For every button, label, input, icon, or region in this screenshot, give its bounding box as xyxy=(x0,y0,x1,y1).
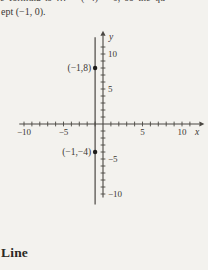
data-point-label: (−1,−4) xyxy=(62,147,91,158)
clipped-text-fragment: e formula is … = (−4) = 0, so the qu xyxy=(0,0,208,3)
clipped-text-line: e formula is … = (−4) = 0, so the qu xyxy=(0,0,208,4)
data-point xyxy=(93,150,97,154)
y-tick-label: 10 xyxy=(108,49,118,59)
y-axis-arrow xyxy=(100,31,105,36)
y-tick-label: −5 xyxy=(108,154,118,164)
y-tick-label: −10 xyxy=(108,189,123,199)
data-point xyxy=(93,66,97,70)
section-heading: Line xyxy=(1,245,28,261)
x-tick-label: −10 xyxy=(17,127,32,137)
x-tick-label: 10 xyxy=(178,127,188,137)
x-axis-arrow xyxy=(199,121,204,126)
intercept-text-line: ept (−1, 0). xyxy=(1,6,46,17)
figure-coordinate-plane: −10−5510105−5−10xy(−1,8)(−1,−4) xyxy=(0,24,208,216)
x-axis-label: x xyxy=(194,127,200,137)
y-axis-label: y xyxy=(108,32,114,42)
x-tick-label: −5 xyxy=(59,127,69,137)
x-tick-label: 5 xyxy=(140,127,145,137)
y-tick-label: 5 xyxy=(108,84,113,94)
coordinate-plane-svg: −10−5510105−5−10xy(−1,8)(−1,−4) xyxy=(0,24,208,216)
data-point-label: (−1,8) xyxy=(68,63,92,74)
